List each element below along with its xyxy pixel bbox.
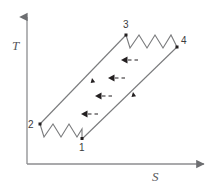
heat-arrow-3 — [95, 93, 114, 100]
state-point-4-marker — [176, 46, 179, 49]
entropy-axis-label: S — [152, 169, 159, 185]
heat-arrow-2 — [108, 75, 127, 82]
state-label-1: 1 — [79, 143, 85, 153]
heat-arrow-1 — [121, 57, 140, 64]
direction-marker-1-4 — [130, 92, 137, 99]
process-leg-1-4 — [82, 47, 177, 139]
state-label-4: 4 — [181, 36, 187, 46]
state-label-3: 3 — [123, 20, 129, 30]
diagram-canvas — [0, 0, 219, 192]
state-point-1-marker — [81, 137, 84, 140]
ts-diagram-figure: T S 1 2 3 4 — [0, 0, 219, 192]
process-leg-2-1-zigzag — [40, 124, 82, 139]
process-leg-3-4-zigzag — [126, 35, 177, 48]
state-label-2: 2 — [28, 120, 34, 130]
direction-marker-2-3 — [89, 78, 96, 85]
state-point-3-marker — [125, 34, 128, 37]
state-point-2-marker — [39, 123, 42, 126]
temperature-axis-label: T — [12, 38, 19, 54]
heat-arrow-4 — [81, 111, 100, 118]
